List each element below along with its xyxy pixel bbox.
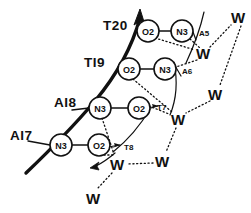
aux-label-a5: A5 [199, 29, 210, 38]
hbond-w-upper-mid-w-top-right [210, 25, 231, 47]
hbond-w-lower-mid-w-bottom [97, 173, 112, 189]
atom-node-n3-a18[interactable]: N3 [89, 97, 111, 119]
structure-diagram: O2N3O2N3N3O2N3O2 WWWWWWW T20TI9AI8AI7 A5… [0, 0, 251, 213]
atom-node-n3-t20[interactable]: N3 [171, 20, 193, 42]
aux-label-t8: T8 [124, 143, 134, 152]
water-label-w-upper-mid: W [196, 45, 211, 62]
strand-arrowhead-icon [90, 162, 99, 170]
residue-label-t19: TI9 [84, 55, 105, 70]
atom-label-o2-a18: O2 [133, 104, 145, 114]
aux-label-t7: T7 [157, 103, 167, 112]
residue-label-t20: T20 [103, 18, 128, 33]
atom-node-o2-a18[interactable]: O2 [128, 97, 150, 119]
atom-label-o2-a17: O2 [93, 141, 105, 151]
residue-label-a18: AI8 [54, 95, 77, 110]
aux-label-a6: A6 [182, 67, 193, 76]
hbond-w-center-right-w-lower-right [166, 128, 176, 152]
atom-label-o2-t20: O2 [142, 27, 154, 37]
atom-node-o2-t20[interactable]: O2 [137, 20, 159, 42]
water-label-w-right-mid: W [208, 86, 223, 103]
residue-label-a17: AI7 [10, 128, 33, 143]
covalent-bond-group [28, 31, 171, 145]
atom-label-n3-a17: N3 [55, 141, 67, 151]
atom-label-n3-t20: N3 [176, 27, 188, 37]
hbond-w-lower-right-w-lower-mid [127, 163, 153, 164]
water-label-w-bottom: W [86, 190, 101, 207]
atom-node-o2-t19[interactable]: O2 [118, 58, 140, 80]
water-label-w-center-right: W [171, 111, 186, 128]
water-label-w-top-right: W [231, 9, 246, 26]
hbond-w-top-right-w-right-mid [220, 26, 241, 85]
water-label-w-lower-mid: W [110, 156, 125, 173]
atom-label-o2-t19: O2 [123, 65, 135, 75]
atom-label-n3-a18: N3 [94, 104, 106, 114]
atom-label-n3-t19: N3 [159, 65, 171, 75]
atom-node-o2-a17[interactable]: O2 [88, 134, 110, 156]
atom-node-group: O2N3O2N3N3O2N3O2 [50, 20, 193, 156]
atom-node-n3-t19[interactable]: N3 [154, 58, 176, 80]
atom-node-n3-a17[interactable]: N3 [50, 134, 72, 156]
diagram-canvas: O2N3O2N3N3O2N3O2 WWWWWWW T20TI9AI8AI7 A5… [0, 0, 251, 213]
water-label-w-lower-right: W [155, 153, 170, 170]
hbond-w-right-mid-w-center-right [186, 101, 210, 113]
backbone-thick-curve [26, 18, 140, 173]
